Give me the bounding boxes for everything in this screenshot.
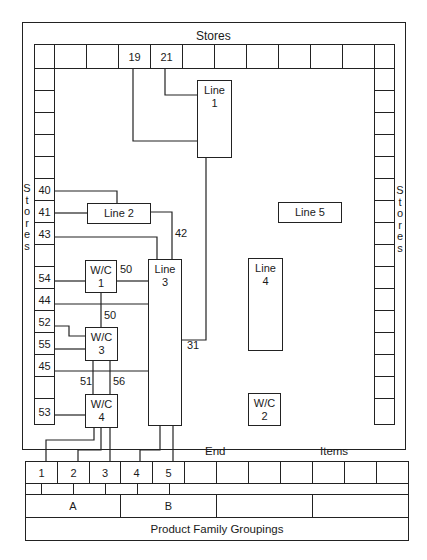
line-4-label: Line: [249, 262, 282, 275]
store-bin[interactable]: [278, 44, 311, 69]
end-item[interactable]: [344, 461, 377, 484]
store-bin[interactable]: [374, 398, 395, 425]
family-group-a[interactable]: A: [25, 494, 121, 518]
end-item-1[interactable]: 1: [25, 461, 58, 484]
product-family-groupings: Product Family Groupings: [25, 517, 409, 541]
family-group-b[interactable]: B: [120, 494, 217, 518]
line-3-box[interactable]: Line 3: [148, 259, 182, 426]
store-bin[interactable]: [374, 134, 395, 157]
end-item-4[interactable]: 4: [120, 461, 153, 484]
end-item[interactable]: [184, 461, 217, 484]
store-bin[interactable]: [34, 44, 55, 69]
store-bin[interactable]: [374, 68, 395, 91]
flow-label-50-down: 50: [104, 309, 116, 322]
store-bin[interactable]: [374, 200, 395, 223]
top-store-row: 19 21: [34, 44, 395, 69]
stores-right-label: Stores: [396, 185, 406, 254]
store-bin-21[interactable]: 21: [150, 44, 183, 69]
store-bin[interactable]: [374, 90, 395, 113]
line-2-label: Line 2: [104, 207, 134, 220]
line-2-box[interactable]: Line 2: [87, 203, 151, 224]
store-bin[interactable]: [214, 44, 247, 69]
store-bin-43[interactable]: 43: [34, 222, 55, 245]
flow-label-51: 51: [80, 375, 92, 388]
store-bin[interactable]: [374, 44, 395, 69]
wc-4-number: 4: [86, 411, 117, 424]
end-item[interactable]: [312, 461, 345, 484]
store-bin[interactable]: [54, 44, 87, 69]
store-bin[interactable]: [246, 44, 279, 69]
stores-top-label: Stores: [196, 30, 231, 43]
store-bin[interactable]: [374, 310, 395, 333]
wc-1-number: 1: [86, 277, 116, 290]
wc-3-number: 3: [86, 344, 117, 357]
left-store-column: 40 41 43 54 44 52 55 45 53: [34, 68, 55, 431]
wc-3-box[interactable]: W/C 3: [85, 327, 118, 361]
store-bin[interactable]: [374, 156, 395, 179]
end-item[interactable]: [376, 461, 409, 484]
flow-label-50-right: 50: [120, 263, 132, 276]
wc-2-number: 2: [249, 410, 280, 423]
line-5-label: Line 5: [295, 206, 325, 219]
wc-1-box[interactable]: W/C 1: [85, 260, 117, 293]
end-item[interactable]: [248, 461, 281, 484]
product-family-label: Product Family Groupings: [151, 523, 284, 535]
store-bin[interactable]: [374, 332, 395, 355]
wc-2-box[interactable]: W/C 2: [248, 393, 281, 426]
wc-2-label: W/C: [249, 397, 280, 410]
stores-left-label: Stores: [23, 183, 33, 252]
family-group-row: A B: [25, 494, 409, 518]
end-items-row: 1 2 3 4 5: [25, 461, 409, 484]
store-bin[interactable]: [34, 90, 55, 113]
store-bin-53[interactable]: 53: [34, 398, 55, 425]
store-bin[interactable]: [374, 178, 395, 201]
flow-label-31: 31: [187, 339, 199, 352]
line-3-number: 3: [149, 276, 181, 289]
line-1-box[interactable]: Line 1: [197, 80, 232, 158]
store-bin[interactable]: [34, 156, 55, 179]
store-bin[interactable]: [374, 222, 395, 245]
line-1-label: Line: [198, 84, 231, 97]
wc-4-box[interactable]: W/C 4: [85, 394, 118, 428]
store-bin[interactable]: [374, 266, 395, 289]
store-bin[interactable]: [374, 354, 395, 377]
stores-right-text: Stores: [396, 185, 404, 254]
store-bin-45[interactable]: 45: [34, 354, 55, 377]
store-bin-54[interactable]: 54: [34, 266, 55, 289]
store-bin[interactable]: [34, 244, 55, 267]
store-bin[interactable]: [86, 44, 119, 69]
family-group[interactable]: [216, 494, 313, 518]
store-bin[interactable]: [34, 112, 55, 135]
store-bin-40[interactable]: 40: [34, 178, 55, 201]
end-item-3[interactable]: 3: [89, 461, 121, 484]
store-bin[interactable]: [374, 112, 395, 135]
store-bin-44[interactable]: 44: [34, 288, 55, 311]
store-bin[interactable]: [182, 44, 215, 69]
right-store-column: [374, 68, 395, 431]
store-bin-55[interactable]: 55: [34, 332, 55, 355]
store-bin[interactable]: [374, 244, 395, 267]
end-item-5[interactable]: 5: [152, 461, 185, 484]
line-4-number: 4: [249, 275, 282, 288]
end-label: End: [205, 445, 225, 458]
store-bin-19[interactable]: 19: [118, 44, 151, 69]
line-5-box[interactable]: Line 5: [278, 202, 342, 223]
store-bin[interactable]: [342, 44, 375, 69]
store-bin[interactable]: [34, 68, 55, 91]
family-group[interactable]: [312, 494, 409, 518]
store-bin-52[interactable]: 52: [34, 310, 55, 333]
store-bin[interactable]: [374, 288, 395, 311]
end-item[interactable]: [216, 461, 249, 484]
flow-label-42: 42: [175, 227, 187, 240]
store-bin[interactable]: [34, 134, 55, 157]
line-4-box[interactable]: Line 4: [248, 258, 283, 351]
line-1-number: 1: [198, 97, 231, 110]
store-bin[interactable]: [34, 376, 55, 399]
wc-1-label: W/C: [86, 264, 116, 277]
store-bin-41[interactable]: 41: [34, 200, 55, 223]
store-bin[interactable]: [310, 44, 343, 69]
end-item[interactable]: [280, 461, 313, 484]
store-bin[interactable]: [374, 376, 395, 399]
end-item-2[interactable]: 2: [57, 461, 90, 484]
wc-3-label: W/C: [86, 331, 117, 344]
